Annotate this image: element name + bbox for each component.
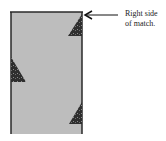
match-diagram: Right side of match. — [0, 0, 166, 141]
match-stick-body — [11, 12, 82, 134]
right-side-label: Right side of match. — [125, 9, 158, 29]
label-line-1: Right side — [125, 9, 158, 19]
label-line-2: of match. — [125, 19, 158, 29]
